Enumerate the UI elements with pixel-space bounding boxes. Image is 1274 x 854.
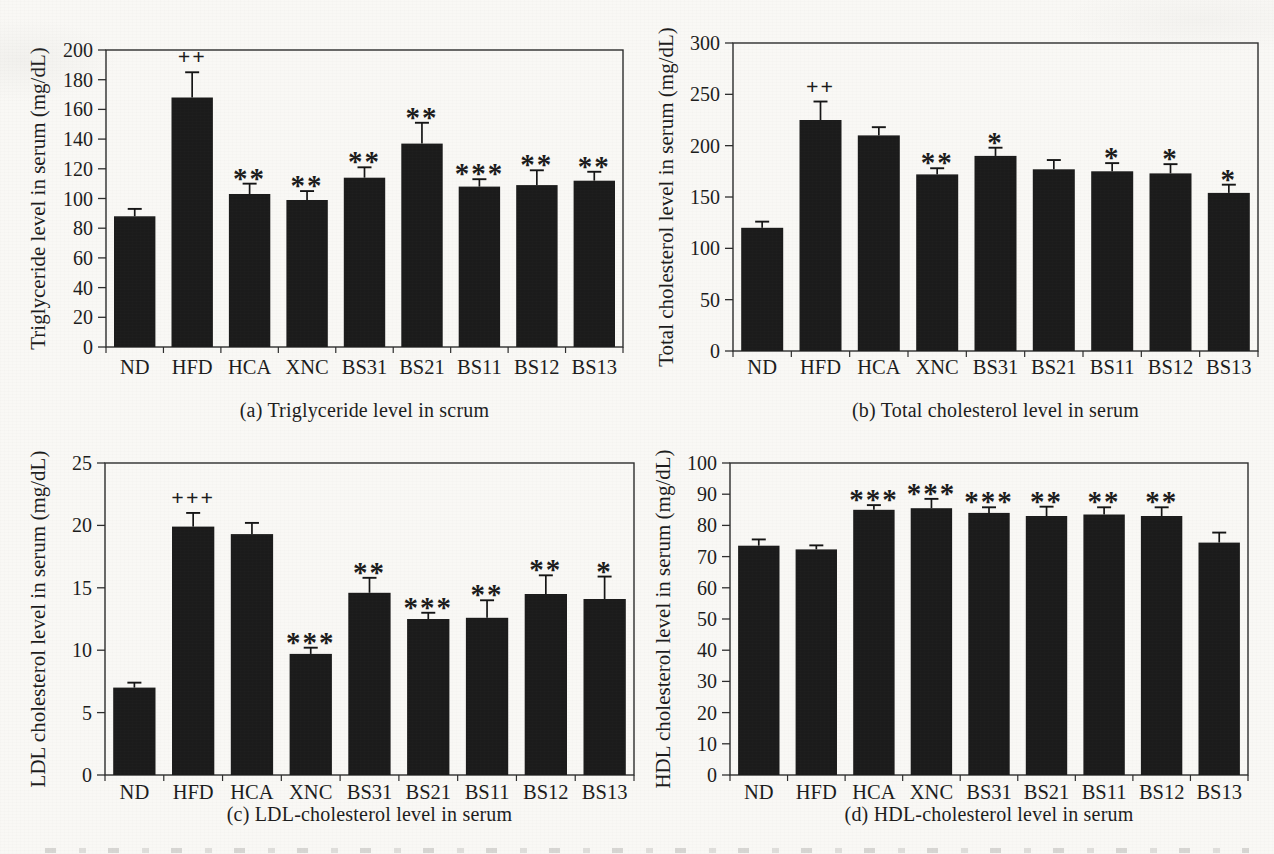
- x-category-label-HFD: HFD: [800, 356, 841, 378]
- bar-BS13: [1199, 543, 1240, 775]
- y-tick-label-90: 90: [697, 483, 717, 505]
- significance-marker-BS31: *: [987, 126, 1004, 158]
- y-tick-label-200: 200: [690, 135, 720, 157]
- bar-ND: [114, 216, 155, 347]
- x-category-label-BS13: BS13: [582, 781, 628, 803]
- caption-panel-b: (b) Total cholesterol level in serum: [733, 399, 1258, 422]
- x-category-label-HFD: HFD: [173, 781, 214, 803]
- y-tick-label-40: 40: [73, 277, 93, 299]
- significance-marker-BS12: **: [520, 148, 553, 180]
- x-category-label-BS21: BS21: [1031, 356, 1077, 378]
- x-category-label-BS13: BS13: [571, 356, 617, 378]
- x-category-label-BS11: BS11: [465, 781, 510, 803]
- bar-HFD: [172, 527, 214, 775]
- bar-XNC: [286, 200, 327, 347]
- x-category-label-XNC: XNC: [910, 781, 953, 803]
- bar-HFD: [172, 98, 213, 348]
- significance-marker-BS21: ***: [404, 591, 454, 623]
- bar-BS21: [407, 619, 449, 775]
- chart-a: 020406080100120140160180200ND++HFD**HCA*…: [26, 39, 623, 378]
- significance-marker-BS13: *: [596, 555, 613, 587]
- y-tick-label-25: 25: [72, 452, 92, 474]
- y-tick-label-0: 0: [707, 764, 717, 786]
- y-tick-label-140: 140: [63, 128, 93, 150]
- figure-canvas: 020406080100120140160180200ND++HFD**HCA*…: [0, 0, 1274, 854]
- bar-ND: [738, 546, 779, 775]
- bar-BS13: [574, 181, 615, 347]
- y-tick-label-300: 300: [690, 32, 720, 54]
- caption-panel-a: (a) Triglyceride level in scrum: [106, 399, 623, 422]
- caption-panel-d: (d) HDL-cholesterol level in serum: [730, 803, 1248, 826]
- y-tick-label-0: 0: [710, 340, 720, 362]
- x-category-label-BS13: BS13: [1196, 781, 1242, 803]
- x-category-label-XNC: XNC: [285, 356, 328, 378]
- y-tick-label-0: 0: [82, 764, 92, 786]
- significance-marker-BS13: **: [578, 150, 611, 182]
- y-tick-label-250: 250: [690, 83, 720, 105]
- bar-BS12: [516, 185, 557, 347]
- significance-marker-BS21: **: [405, 101, 438, 133]
- bar-HFD: [800, 120, 842, 351]
- y-tick-label-70: 70: [697, 546, 717, 568]
- y-tick-label-50: 50: [700, 289, 720, 311]
- y-tick-label-50: 50: [697, 608, 717, 630]
- significance-marker-XNC: ***: [286, 626, 336, 658]
- bar-HCA: [853, 510, 894, 775]
- x-category-label-HCA: HCA: [230, 781, 273, 803]
- bar-BS13: [1208, 193, 1250, 351]
- x-category-label-BS31: BS31: [347, 781, 393, 803]
- y-tick-label-100: 100: [687, 452, 717, 474]
- x-category-label-XNC: XNC: [289, 781, 332, 803]
- significance-marker-BS11: ***: [455, 157, 505, 189]
- y-tick-label-100: 100: [63, 188, 93, 210]
- y-tick-label-80: 80: [73, 217, 93, 239]
- bar-BS12: [1141, 516, 1182, 775]
- x-category-label-BS21: BS21: [405, 781, 451, 803]
- bar-ND: [113, 688, 155, 775]
- significance-marker-HCA: **: [233, 162, 266, 194]
- bar-HCA: [231, 534, 273, 775]
- x-category-label-BS21: BS21: [399, 356, 445, 378]
- x-category-label-ND: ND: [744, 781, 774, 803]
- bar-BS21: [1033, 169, 1075, 351]
- bar-BS11: [466, 618, 508, 775]
- cropped-text-remnant: [45, 848, 1249, 853]
- y-tick-label-60: 60: [697, 577, 717, 599]
- x-category-label-ND: ND: [747, 356, 777, 378]
- y-axis-label: LDL cholesterol level in serum (mg/dL): [26, 451, 50, 788]
- significance-marker-BS13: *: [1221, 163, 1238, 195]
- bar-XNC: [911, 508, 952, 775]
- x-category-label-BS31: BS31: [966, 781, 1012, 803]
- bar-BS13: [584, 599, 626, 775]
- y-tick-label-100: 100: [690, 237, 720, 259]
- y-tick-label-180: 180: [63, 69, 93, 91]
- bar-XNC: [916, 174, 958, 351]
- x-category-label-BS12: BS12: [1148, 356, 1194, 378]
- y-axis-label: Triglyceride level in serum (mg/dL): [26, 47, 50, 350]
- bar-BS31: [975, 156, 1017, 351]
- significance-marker-BS12: *: [1162, 142, 1179, 174]
- significance-marker-XNC: ***: [907, 477, 957, 509]
- significance-marker-BS11: **: [1088, 485, 1121, 517]
- y-tick-label-120: 120: [63, 158, 93, 180]
- chart-d: 0102030405060708090100NDHFD***HCA***XNC*…: [651, 449, 1248, 803]
- significance-marker-BS12: **: [1145, 485, 1178, 517]
- bar-BS11: [459, 187, 500, 347]
- bar-XNC: [290, 654, 332, 775]
- x-category-label-BS11: BS11: [457, 356, 502, 378]
- x-category-label-BS11: BS11: [1082, 781, 1127, 803]
- significance-marker-HFD: ++: [806, 74, 835, 99]
- bar-HCA: [858, 135, 900, 351]
- y-tick-label-40: 40: [697, 639, 717, 661]
- x-category-label-BS12: BS12: [1139, 781, 1185, 803]
- bar-BS12: [525, 594, 567, 775]
- significance-marker-HCA: ***: [849, 483, 899, 515]
- x-category-label-BS12: BS12: [514, 356, 560, 378]
- significance-marker-BS31: ***: [964, 485, 1014, 517]
- bar-BS12: [1150, 173, 1192, 351]
- x-category-label-BS12: BS12: [523, 781, 569, 803]
- x-category-label-ND: ND: [120, 356, 150, 378]
- x-category-label-BS11: BS11: [1090, 356, 1135, 378]
- chart-c: 0510152025ND+++HFDHCA***XNC**BS31***BS21…: [26, 451, 634, 803]
- chart-b: 050100150200250300ND++HFDHCA**XNC*BS31BS…: [654, 27, 1258, 378]
